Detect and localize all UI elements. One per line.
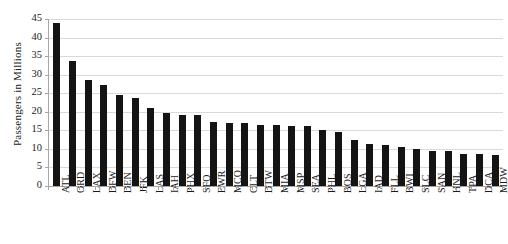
x-tick-mark	[330, 186, 331, 190]
bar	[85, 80, 92, 186]
x-tick-label: PHX	[185, 173, 196, 193]
x-tick-label: DFW	[107, 170, 118, 193]
x-tick-mark	[377, 186, 378, 190]
x-tick-label: FLL	[389, 175, 400, 193]
x-tick-label: DTW	[263, 170, 274, 193]
x-tick-mark	[283, 186, 284, 190]
x-tick-mark	[345, 186, 346, 190]
bar	[69, 61, 76, 186]
x-tick-mark	[126, 186, 127, 190]
x-tick-mark	[79, 186, 80, 190]
x-tick-mark	[455, 186, 456, 190]
x-tick-mark	[95, 186, 96, 190]
y-tick-label: 35	[16, 49, 42, 60]
x-tick-label: LAS	[154, 174, 165, 193]
x-tick-label: IAH	[169, 175, 180, 193]
y-tick-label: 45	[16, 12, 42, 23]
y-tick-label: 25	[16, 86, 42, 97]
passengers-bar-chart: Passengers in Millions 05101520253035404…	[0, 0, 508, 244]
y-tick-label: 40	[16, 31, 42, 42]
x-tick-mark	[205, 186, 206, 190]
x-tick-label: EWR	[216, 170, 227, 193]
x-tick-mark	[64, 186, 65, 190]
x-tick-mark	[142, 186, 143, 190]
x-tick-label: SAN	[436, 173, 447, 193]
x-tick-label: MCO	[232, 170, 243, 193]
y-tick-label: 30	[16, 68, 42, 79]
x-tick-label: MIA	[279, 173, 290, 193]
x-tick-mark	[111, 186, 112, 190]
x-tick-mark	[158, 186, 159, 190]
x-tick-mark	[424, 186, 425, 190]
x-tick-mark	[408, 186, 409, 190]
x-tick-label: MSP	[295, 173, 306, 193]
x-tick-label: SLC	[420, 174, 431, 193]
x-tick-label: BOS	[342, 173, 353, 193]
y-tick-label: 20	[16, 105, 42, 116]
x-tick-mark	[298, 186, 299, 190]
x-tick-mark	[439, 186, 440, 190]
x-axis-tick-labels: ATLORDLAXDFWDENJFKLASIAHPHXSFOEWRMCOCLTD…	[48, 186, 502, 244]
x-tick-label: DCA	[483, 172, 494, 193]
x-tick-mark	[189, 186, 190, 190]
x-tick-label: DEN	[122, 172, 133, 193]
x-tick-mark	[392, 186, 393, 190]
x-tick-label: CLT	[248, 175, 259, 193]
x-tick-label: IAD	[373, 175, 384, 193]
x-tick-label: HNL	[451, 172, 462, 193]
x-tick-mark	[502, 186, 503, 190]
x-tick-label: ORD	[75, 172, 86, 193]
x-tick-label: LAX	[91, 172, 102, 193]
x-tick-mark	[267, 186, 268, 190]
x-tick-label: BWI	[404, 173, 415, 193]
x-tick-label: ATL	[60, 174, 71, 193]
y-tick-label: 10	[16, 142, 42, 153]
x-tick-label: TPA	[467, 175, 478, 193]
x-tick-mark	[314, 186, 315, 190]
x-tick-mark	[236, 186, 237, 190]
x-tick-label: SEA	[310, 174, 321, 193]
x-tick-label: JFK	[138, 176, 149, 193]
x-tick-mark	[486, 186, 487, 190]
plot-area	[48, 19, 503, 187]
x-tick-mark	[48, 186, 49, 190]
y-tick-label: 15	[16, 123, 42, 134]
x-tick-label: MDW	[498, 167, 508, 193]
x-tick-mark	[471, 186, 472, 190]
y-tick-label: 0	[16, 179, 42, 190]
x-tick-label: PHL	[326, 174, 337, 193]
y-tick-label: 5	[16, 160, 42, 171]
bar-series	[49, 19, 503, 186]
bar	[53, 23, 60, 186]
x-tick-mark	[361, 186, 362, 190]
x-tick-label: LGA	[357, 172, 368, 193]
x-tick-label: SFO	[201, 174, 212, 193]
x-tick-mark	[252, 186, 253, 190]
x-tick-mark	[220, 186, 221, 190]
x-tick-mark	[173, 186, 174, 190]
